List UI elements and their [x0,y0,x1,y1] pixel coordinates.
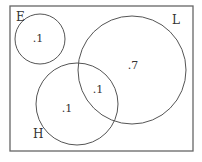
set-e-label: E [16,10,25,24]
region-h-only-value: .1 [62,102,73,115]
set-h-label: H [33,127,43,141]
region-l-only-value: .7 [128,59,139,72]
venn-diagram: E L H .1 .7 .1 .1 [0,0,202,162]
region-e-only-value: .1 [33,32,44,45]
set-h-circle [36,63,118,145]
set-l-label: L [172,13,180,27]
region-h-and-l-value: .1 [93,83,104,96]
